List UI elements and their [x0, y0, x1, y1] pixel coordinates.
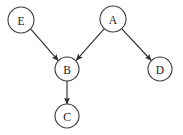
node-label-c: C: [63, 111, 71, 123]
directed-graph: EABCD: [0, 0, 183, 135]
graph-node-d[interactable]: D: [148, 57, 172, 81]
node-label-b: B: [63, 64, 71, 76]
diagram-canvas: EABCD: [0, 0, 183, 135]
graph-node-a[interactable]: A: [100, 6, 126, 32]
graph-node-c[interactable]: C: [55, 104, 79, 128]
graph-node-b[interactable]: B: [55, 57, 79, 81]
node-label-d: D: [156, 64, 164, 76]
graph-node-e[interactable]: E: [8, 7, 34, 33]
graph-nodes-layer: EABCD: [8, 6, 172, 128]
graph-edge-e-to-b: [31, 29, 59, 61]
graph-edges-layer: [31, 29, 152, 104]
graph-edge-a-to-d: [122, 29, 152, 61]
graph-edge-a-to-b: [76, 29, 104, 61]
node-label-e: E: [17, 15, 24, 27]
node-label-a: A: [109, 14, 118, 26]
